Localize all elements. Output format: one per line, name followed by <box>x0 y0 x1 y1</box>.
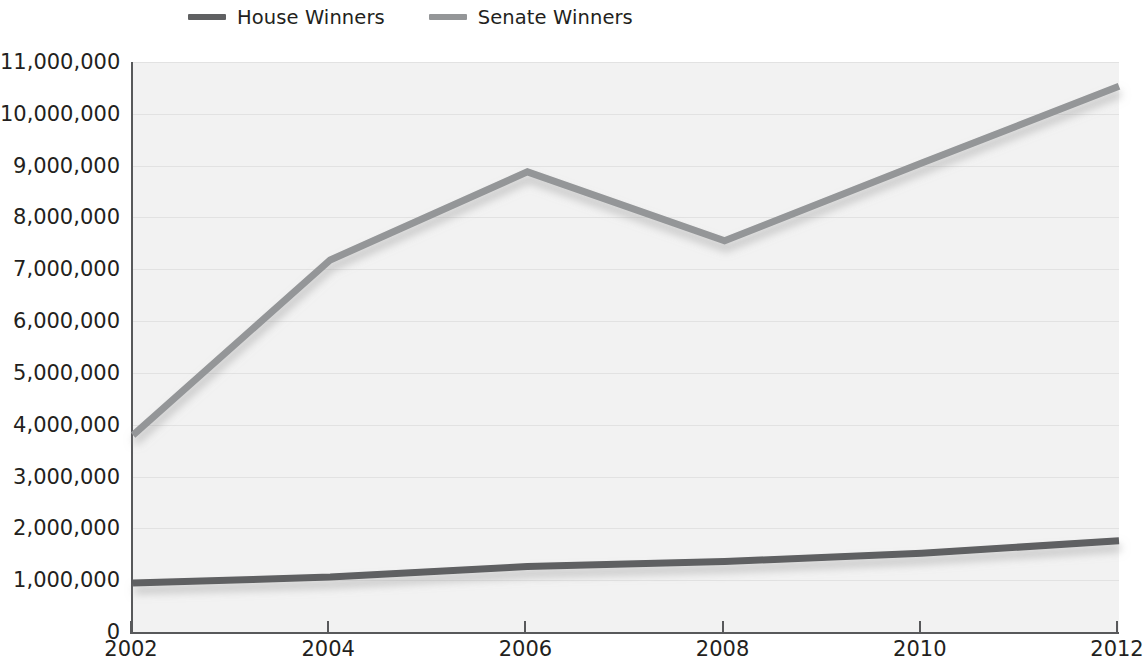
legend-swatch-senate-icon <box>429 14 467 20</box>
series-lines <box>133 62 1119 632</box>
legend-label-house: House Winners <box>237 6 385 29</box>
series-line-senate <box>133 86 1119 435</box>
y-axis-tick-label: 4,000,000 <box>0 414 120 435</box>
y-axis-tick-label: 9,000,000 <box>0 155 120 176</box>
y-axis-labels: 11,000,00010,000,0009,000,0008,000,0007,… <box>0 0 120 668</box>
legend-label-senate: Senate Winners <box>478 6 633 29</box>
chart-legend: House Winners Senate Winners <box>0 0 1124 34</box>
x-axis-tick-label: 2006 <box>499 639 552 660</box>
y-axis-tick-label: 3,000,000 <box>0 466 120 487</box>
plot-area <box>131 62 1119 634</box>
series-line-house <box>133 541 1119 583</box>
legend-swatch-house-icon <box>188 14 226 20</box>
legend-item-senate: Senate Winners <box>429 6 633 29</box>
y-axis-tick-label: 11,000,000 <box>0 52 120 73</box>
x-axis-tick-label: 2012 <box>1090 639 1143 660</box>
x-axis-tick-label: 2002 <box>104 639 157 660</box>
y-axis-tick-label: 8,000,000 <box>0 207 120 228</box>
y-axis-tick-label: 2,000,000 <box>0 518 120 539</box>
y-axis-tick-label: 10,000,000 <box>0 103 120 124</box>
y-axis-tick-label: 7,000,000 <box>0 259 120 280</box>
x-axis-tick-label: 2004 <box>301 639 354 660</box>
y-axis-tick-label: 0 <box>0 622 120 643</box>
x-axis-tick-label: 2008 <box>696 639 749 660</box>
y-axis-tick-label: 5,000,000 <box>0 362 120 383</box>
y-axis-tick-label: 1,000,000 <box>0 570 120 591</box>
x-axis-tick-label: 2010 <box>893 639 946 660</box>
y-axis-tick-label: 6,000,000 <box>0 311 120 332</box>
legend-item-house: House Winners <box>188 6 385 29</box>
